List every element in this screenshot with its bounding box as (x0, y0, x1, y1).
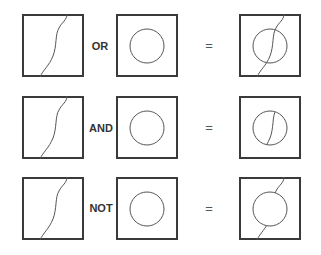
result-box-and (239, 96, 301, 159)
circle-shape (130, 29, 164, 63)
curve-box-row1 (22, 14, 84, 77)
operator-or: OR (85, 40, 115, 52)
operator-not: NOT (86, 202, 116, 214)
curve-box-row3 (22, 177, 84, 240)
equals-sign: = (202, 120, 216, 135)
circle-box-row2 (116, 96, 178, 159)
curve-shape (40, 14, 67, 77)
equals-sign: = (202, 38, 216, 53)
circle-box-row1 (116, 14, 178, 77)
curve-box-row2 (22, 96, 84, 159)
circle-box-row3 (116, 177, 178, 240)
result-box-not (239, 177, 301, 240)
equals-sign: = (202, 201, 216, 216)
result-box-or (239, 14, 301, 77)
operator-and: AND (86, 122, 116, 134)
